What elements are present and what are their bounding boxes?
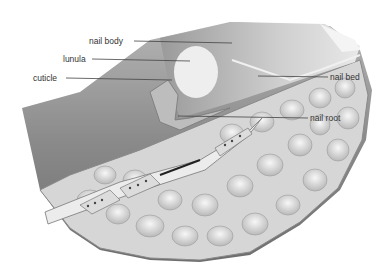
label-nail-root: nail root	[310, 113, 340, 123]
label-nail-bed: nail bed	[330, 72, 360, 82]
finger-illustration	[0, 0, 384, 265]
lunula-shape	[174, 46, 218, 98]
label-cuticle: cuticle	[33, 73, 57, 83]
label-nail-body: nail body	[89, 36, 123, 46]
label-lunula: lunula	[63, 54, 86, 64]
nail-anatomy-diagram: nail body lunula cuticle nail bed nail r…	[0, 0, 384, 265]
